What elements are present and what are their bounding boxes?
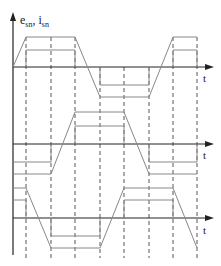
phase-b-emf: [13, 112, 197, 174]
phase-c-waveforms: t: [13, 188, 214, 248]
emf-current-waveform-diagram: esn, isn t t t: [0, 0, 221, 266]
phase-b-waveforms: t: [13, 112, 214, 174]
phase-b-current: [13, 144, 51, 162]
phase-a-time-arrow-icon: [205, 64, 214, 70]
phase-a-waveforms: t: [13, 37, 214, 97]
y-axis-label: esn, isn: [20, 13, 49, 29]
dashed-time-markers: [26, 37, 197, 258]
phase-c-current: [13, 200, 26, 218]
y-axis-arrow-icon: [10, 12, 16, 21]
y-axis: [10, 12, 16, 255]
phase-c-time-arrow-icon: [205, 215, 214, 221]
phase-a-t-label: t: [203, 72, 206, 84]
phase-c-t-label: t: [203, 224, 206, 236]
phase-a-current: [26, 50, 75, 67]
phase-b-t-label: t: [203, 149, 206, 161]
phase-b-time-arrow-icon: [205, 141, 214, 147]
